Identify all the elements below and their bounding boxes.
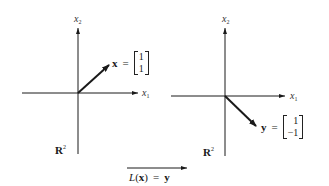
right-x2-sub: 2 [226,19,229,25]
right-x1-sub: 1 [294,96,297,102]
left-x1-sub: 1 [146,93,149,99]
diagram-canvas [0,0,329,186]
vector-x-equals: = [123,57,129,69]
vector-x-component-1: 1 [139,51,144,63]
vector-y-component-1: 1 [293,115,298,127]
right-x2-axis-label: x2 [222,14,229,25]
vector-x-name: x [112,57,118,69]
right-x1-axis-label: x1 [290,91,297,102]
left-space-sup: 2 [63,144,66,150]
vector-y-arrow [225,96,256,126]
left-x2-axis-label: x2 [74,14,81,25]
vector-x-arrow [78,65,109,93]
mapping-result: y [164,171,170,183]
right-space-sup: 2 [211,146,214,152]
right-space-label: R2 [203,146,214,158]
vector-y-component-2: −1 [288,127,299,139]
vector-x-definition: x = 1 1 [112,51,149,75]
vector-x-component-2: 1 [139,63,144,75]
mapping-close-paren: ) [144,171,148,183]
vector-y-definition: y = 1 −1 [261,115,303,139]
left-space-label: R2 [55,144,66,156]
vector-y-matrix: 1 −1 [283,115,304,139]
vector-y-name: y [261,121,267,133]
left-x2-sub: 2 [78,19,81,25]
vector-x-matrix: 1 1 [134,51,149,75]
vector-y-equals: = [272,121,278,133]
mapping-equals: = [153,171,159,183]
left-space-R: R [55,144,63,156]
right-space-R: R [203,146,211,158]
left-x1-axis-label: x1 [142,88,149,99]
mapping-label: L(x)=y [129,172,170,183]
